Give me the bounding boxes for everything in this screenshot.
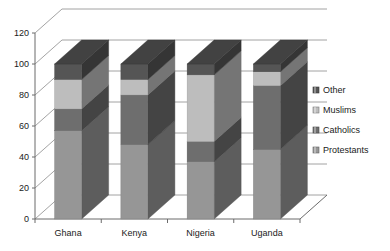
x-axis-category-label: Uganda <box>251 228 283 238</box>
chart-canvas: 120100806040200 GhanaKenyaNigeriaUganda … <box>0 0 390 251</box>
legend-swatch <box>313 107 319 113</box>
bar-segment-front <box>121 145 148 219</box>
bar-segment-front <box>253 72 280 86</box>
bar-segment-front <box>55 64 82 80</box>
x-axis-category-label: Nigeria <box>186 228 215 238</box>
bar-segment-front <box>253 149 280 219</box>
bar-segment-front <box>187 75 214 142</box>
y-axis-tick-label: 80 <box>19 90 29 100</box>
y-axis-tick-label: 0 <box>24 214 29 224</box>
bar-segment-front <box>55 80 82 109</box>
stacked-bar-chart: 120100806040200 GhanaKenyaNigeriaUganda … <box>0 0 390 251</box>
bar-segment-front <box>121 95 148 145</box>
bar-segment-front <box>253 86 280 150</box>
y-axis-tick-label: 20 <box>19 183 29 193</box>
legend-item-label: Catholics <box>323 125 361 135</box>
x-axis-category-label: Ghana <box>55 228 82 238</box>
bar-segment-front <box>55 131 82 219</box>
bar-segment-front <box>121 64 148 80</box>
legend-swatch <box>313 147 319 153</box>
y-axis-tick-label: 40 <box>19 152 29 162</box>
x-axis-category-label: Kenya <box>122 228 148 238</box>
legend-item-label: Protestants <box>323 145 369 155</box>
legend-swatch <box>313 87 319 93</box>
legend-item-label: Other <box>323 85 346 95</box>
legend-swatch <box>313 127 319 133</box>
y-axis-tick-label: 100 <box>14 59 29 69</box>
bar-segment-front <box>187 64 214 75</box>
bar-segment-front <box>253 64 280 72</box>
y-axis-tick-label: 60 <box>19 121 29 131</box>
legend-item-label: Muslims <box>323 105 356 115</box>
bar-segment-front <box>121 80 148 96</box>
bar-segment-front <box>187 162 214 219</box>
y-axis-tick-label: 120 <box>14 28 29 38</box>
bar-segment-front <box>55 109 82 131</box>
bar-segment-front <box>187 142 214 162</box>
